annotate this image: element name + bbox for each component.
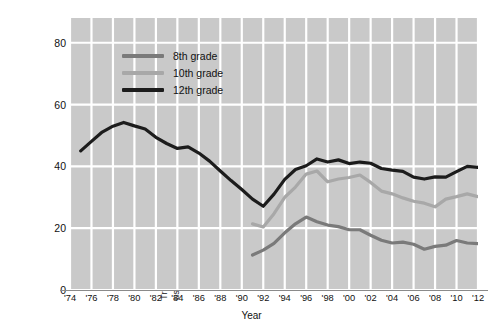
x-tick-label: '84 <box>165 293 189 303</box>
series-lines <box>81 122 478 255</box>
x-tick-label: '98 <box>316 293 340 303</box>
y-tick-label: 60 <box>40 99 66 111</box>
y-tick-label: 40 <box>40 160 66 172</box>
legend-label: 12th grade <box>173 84 223 96</box>
x-tick-label: '86 <box>187 293 211 303</box>
y-tick-label: 20 <box>40 222 66 234</box>
x-tick-label: '96 <box>294 293 318 303</box>
x-tick-label: '80 <box>122 293 146 303</box>
x-tick-label: '10 <box>445 293 469 303</box>
x-axis-title: Year <box>0 310 503 321</box>
x-tick-label: '92 <box>251 293 275 303</box>
chart-legend: 8th grade10th grade12th grade <box>122 47 272 98</box>
legend-label: 10th grade <box>173 67 223 79</box>
legend-swatch-icon <box>122 54 164 58</box>
x-tick-label: '08 <box>423 293 447 303</box>
legend-label: 8th grade <box>173 50 217 62</box>
series-line-12th-grade <box>81 122 478 206</box>
x-tick-label: '12 <box>466 293 490 303</box>
x-tick-label: '02 <box>359 293 383 303</box>
legend-swatch-icon <box>122 71 164 75</box>
legend-item: 8th grade <box>122 47 272 64</box>
x-tick-label: '90 <box>230 293 254 303</box>
x-tick-label: '00 <box>337 293 361 303</box>
legend-item: 10th grade <box>122 64 272 81</box>
chart-figure: Trends in the percent of U.S. adolescent… <box>0 0 503 335</box>
x-tick-label: '82 <box>144 293 168 303</box>
legend-item: 12th grade <box>122 81 272 98</box>
x-tick-label: '88 <box>208 293 232 303</box>
x-tick-label: '74 <box>58 293 82 303</box>
legend-swatch-icon <box>122 88 164 92</box>
series-line-8th-grade <box>253 217 478 255</box>
x-tick-label: '76 <box>79 293 103 303</box>
x-tick-label: '94 <box>273 293 297 303</box>
x-tick-label: '06 <box>402 293 426 303</box>
x-axis-line <box>60 290 488 291</box>
y-tick-label: 80 <box>40 37 66 49</box>
x-tick-label: '78 <box>101 293 125 303</box>
x-tick-label: '04 <box>380 293 404 303</box>
